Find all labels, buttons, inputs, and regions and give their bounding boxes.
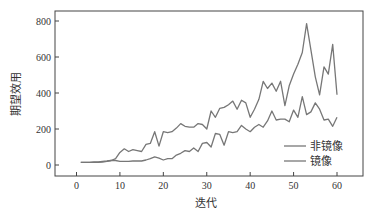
y-axis-title: 期望效用 [9, 72, 23, 116]
x-tick-label: 30 [202, 180, 212, 191]
y-tick-label: 600 [36, 52, 51, 63]
x-axis-ticks: 0102030405060 [74, 172, 342, 191]
y-tick-label: 0 [46, 160, 51, 171]
x-tick-label: 10 [115, 180, 125, 191]
legend-label-non-mirror: 非镜像 [310, 139, 343, 153]
line-chart: 0200400600800 0102030405060 期望效用 迭代 非镜像 … [0, 0, 374, 219]
series-lines [81, 24, 337, 163]
y-tick-label: 800 [36, 16, 51, 27]
y-tick-label: 200 [36, 124, 51, 135]
x-tick-label: 20 [158, 180, 168, 191]
x-tick-label: 50 [289, 180, 299, 191]
y-axis-ticks: 0200400600800 [36, 16, 59, 171]
x-tick-label: 40 [245, 180, 255, 191]
legend: 非镜像 镜像 [284, 139, 343, 168]
x-tick-label: 0 [74, 180, 79, 191]
series-line-non-mirror [81, 24, 337, 163]
x-axis-title: 迭代 [195, 197, 217, 210]
y-tick-label: 400 [36, 88, 51, 99]
x-tick-label: 60 [332, 180, 342, 191]
legend-label-mirror: 镜像 [310, 154, 332, 168]
